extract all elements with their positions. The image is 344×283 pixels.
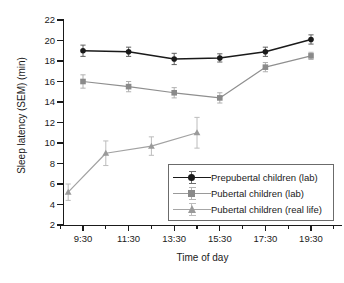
legend-label: Prepubertal children (lab)	[211, 172, 318, 183]
data-point	[308, 37, 314, 43]
series-square	[80, 52, 314, 103]
data-point	[217, 95, 223, 101]
x-axis-title: Time of day	[63, 252, 342, 263]
data-point	[263, 49, 269, 55]
plot-area	[0, 0, 344, 283]
data-point	[80, 48, 86, 54]
chart-legend: Prepubertal children (lab) Pubertal chil…	[168, 164, 334, 221]
legend-item-pubertal-lab: Pubertal children (lab)	[173, 185, 328, 201]
legend-marker-circle-icon	[173, 169, 211, 185]
legend-marker-triangle-icon	[173, 201, 211, 217]
series-line	[83, 39, 311, 58]
legend-item-prepubertal-lab: Prepubertal children (lab)	[173, 169, 328, 185]
data-point	[126, 49, 132, 55]
data-point	[217, 55, 223, 61]
data-point	[80, 79, 86, 85]
legend-marker-square-icon	[173, 185, 211, 201]
series-line	[83, 56, 311, 98]
data-point	[194, 129, 201, 135]
legend-item-pubertal-real-life: Pubertal children (real life)	[173, 201, 328, 217]
data-point	[171, 56, 177, 62]
data-point	[308, 53, 314, 59]
data-point	[126, 84, 132, 90]
legend-label: Pubertal children (lab)	[211, 188, 304, 199]
chart-figure: 246810121416182022 9:3011:3013:3015:3017…	[0, 0, 344, 283]
legend-label: Pubertal children (real life)	[211, 204, 322, 215]
data-point	[171, 90, 177, 96]
y-axis-title: Sleep latency (SEM) (min)	[16, 21, 27, 211]
data-point	[263, 64, 269, 70]
series-circle	[80, 35, 314, 65]
